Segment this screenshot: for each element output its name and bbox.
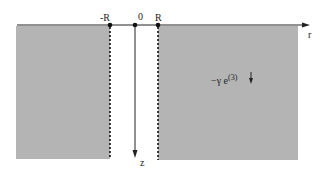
point-minus-R (108, 23, 113, 28)
label-R: R (155, 13, 162, 23)
axes-drawing (0, 0, 327, 180)
point-R (156, 23, 161, 28)
z-axis-arrow-icon (133, 150, 138, 158)
label-r-axis: r (308, 30, 311, 40)
r-axis-arrow-icon (302, 23, 310, 28)
label-z-axis: z (140, 158, 144, 168)
label-origin: 0 (138, 12, 143, 22)
force-label: −γ e(3) (211, 74, 237, 86)
point-origin (133, 23, 138, 28)
force-label-superscript: (3) (228, 73, 237, 82)
label-minus-R: -R (100, 13, 110, 23)
force-arrow-icon (249, 78, 253, 84)
force-label-prefix: −γ e (211, 75, 228, 86)
